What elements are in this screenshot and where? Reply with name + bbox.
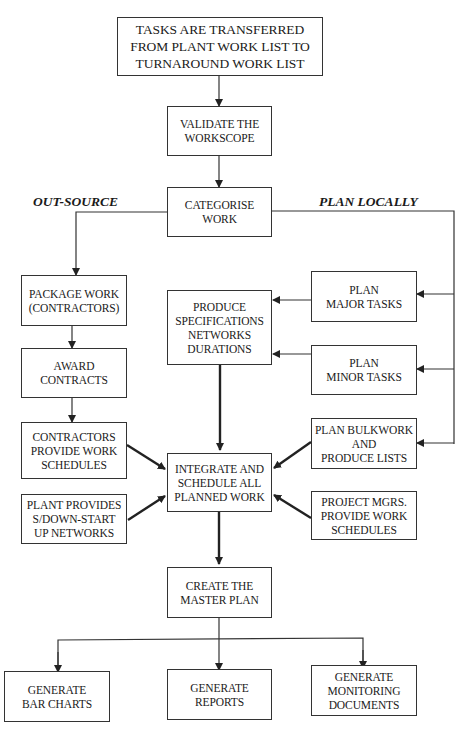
package-work-text: PACKAGE WORK (CONTRACTORS): [29, 287, 120, 315]
plan-minor-tasks-box: PLAN MINOR TASKS: [311, 345, 417, 395]
validate-workscope-text: VALIDATE THE WORKSCOPE: [180, 117, 259, 145]
plan-minor-tasks-text: PLAN MINOR TASKS: [326, 356, 401, 384]
contractors-schedules-text: CONTRACTORS PROVIDE WORK SCHEDULES: [31, 430, 117, 472]
plan-locally-label: PLAN LOCALLY: [319, 194, 418, 210]
award-contracts-box: AWARD CONTRACTS: [21, 348, 127, 398]
generate-bar-charts-text: GENERATE BAR CHARTS: [22, 683, 92, 711]
master-plan-text: CREATE THE MASTER PLAN: [180, 579, 258, 607]
generate-reports-text: GENERATE REPORTS: [190, 681, 249, 709]
project-managers-schedules-box: PROJECT MGRS. PROVIDE WORK SCHEDULES: [311, 491, 417, 540]
plan-major-tasks-box: PLAN MAJOR TASKS: [311, 271, 417, 322]
project-managers-schedules-text: PROJECT MGRS. PROVIDE WORK SCHEDULES: [321, 495, 407, 537]
categorise-work-box: CATEGORISE WORK: [167, 187, 272, 237]
transfer-tasks-box: TASKS ARE TRANSFERRED FROM PLANT WORK LI…: [117, 17, 323, 76]
plant-networks-text: PLANT PROVIDES S/DOWN-START UP NETWORKS: [27, 498, 122, 540]
integrate-schedule-box: INTEGRATE AND SCHEDULE ALL PLANNED WORK: [167, 453, 272, 512]
award-contracts-text: AWARD CONTRACTS: [40, 359, 107, 387]
transfer-tasks-text: TASKS ARE TRANSFERRED FROM PLANT WORK LI…: [130, 21, 309, 72]
plan-bulkwork-text: PLAN BULKWORK AND PRODUCE LISTS: [315, 423, 413, 465]
generate-monitoring-text: GENERATE MONITORING DOCUMENTS: [328, 670, 401, 712]
categorise-work-text: CATEGORISE WORK: [185, 198, 254, 226]
contractors-schedules-box: CONTRACTORS PROVIDE WORK SCHEDULES: [21, 422, 127, 479]
package-work-box: PACKAGE WORK (CONTRACTORS): [21, 275, 127, 326]
validate-workscope-box: VALIDATE THE WORKSCOPE: [167, 106, 272, 156]
generate-reports-box: GENERATE REPORTS: [167, 669, 272, 720]
produce-specifications-box: PRODUCE SPECIFICATIONS NETWORKS DURATION…: [167, 290, 272, 365]
produce-specifications-text: PRODUCE SPECIFICATIONS NETWORKS DURATION…: [175, 300, 264, 356]
integrate-schedule-text: INTEGRATE AND SCHEDULE ALL PLANNED WORK: [174, 462, 264, 504]
master-plan-box: CREATE THE MASTER PLAN: [167, 567, 272, 618]
outsource-label: OUT-SOURCE: [33, 194, 118, 210]
plant-networks-box: PLANT PROVIDES S/DOWN-START UP NETWORKS: [21, 494, 127, 544]
generate-bar-charts-box: GENERATE BAR CHARTS: [4, 671, 110, 722]
generate-monitoring-box: GENERATE MONITORING DOCUMENTS: [311, 665, 417, 716]
plan-major-tasks-text: PLAN MAJOR TASKS: [326, 283, 402, 311]
plan-bulkwork-box: PLAN BULKWORK AND PRODUCE LISTS: [311, 418, 417, 469]
